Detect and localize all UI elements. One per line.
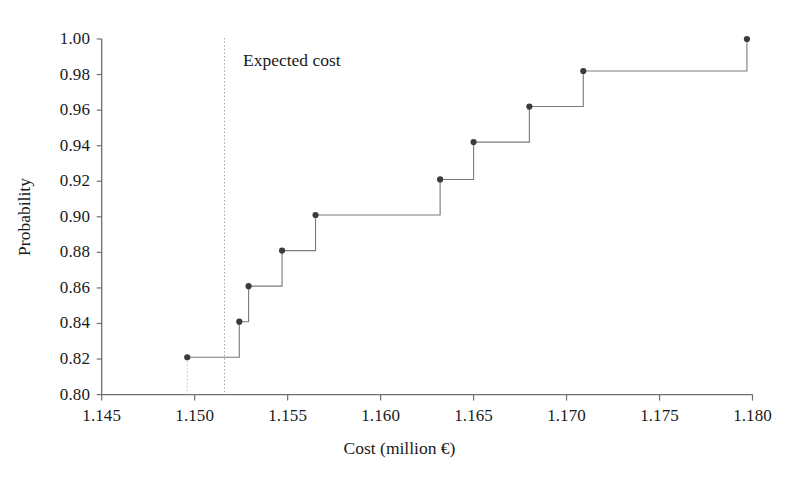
x-axis-ticks: [102, 395, 753, 401]
data-point-marker: [236, 319, 242, 325]
data-point-marker: [437, 176, 443, 182]
y-axis-label: Probability: [14, 178, 35, 256]
y-tick-label: 0.98: [28, 65, 90, 85]
x-tick-label: 1.165: [454, 406, 493, 426]
data-point-marker: [526, 103, 532, 109]
y-tick-label: 0.96: [28, 100, 90, 120]
x-tick-label: 1.170: [547, 406, 586, 426]
step-line-path: [187, 39, 747, 357]
data-point-markers: [184, 36, 750, 360]
data-point-marker: [580, 68, 586, 74]
data-point-marker: [184, 354, 190, 360]
data-point-marker: [744, 36, 750, 42]
data-point-marker: [470, 139, 476, 145]
y-tick-label: 0.84: [28, 313, 90, 333]
y-tick-label: 0.90: [28, 207, 90, 227]
data-point-marker: [245, 283, 251, 289]
y-tick-label: 0.94: [28, 136, 90, 156]
y-tick-label: 0.92: [28, 171, 90, 191]
axis-lines: [102, 39, 753, 395]
data-point-marker: [279, 247, 285, 253]
x-tick-label: 1.145: [82, 406, 121, 426]
y-axis-ticks: [97, 39, 102, 395]
chart-figure: 0.800.820.840.860.880.900.920.940.960.98…: [0, 0, 799, 480]
data-point-marker: [312, 212, 318, 218]
step-curve: [187, 39, 747, 357]
x-tick-label: 1.155: [268, 406, 307, 426]
x-tick-label: 1.150: [175, 406, 214, 426]
x-axis-label: Cost (million €): [0, 438, 799, 459]
y-tick-label: 0.86: [28, 278, 90, 298]
x-tick-label: 1.175: [640, 406, 679, 426]
expected-cost-annotation-label: Expected cost: [243, 50, 341, 71]
y-tick-label: 1.00: [28, 29, 90, 49]
y-tick-label: 0.82: [28, 349, 90, 369]
y-tick-label: 0.88: [28, 242, 90, 262]
x-tick-label: 1.160: [361, 406, 400, 426]
y-tick-label: 0.80: [28, 385, 90, 405]
x-tick-label: 1.180: [733, 406, 772, 426]
